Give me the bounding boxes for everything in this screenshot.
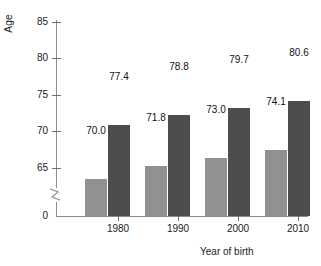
y-tick-label-0-wrap: 0	[22, 211, 48, 221]
y-axis-line	[56, 20, 57, 188]
bar-label-1990-men: 71.8	[140, 113, 172, 123]
y-tick-label-0: 0	[24, 211, 48, 221]
y-tick-70	[52, 131, 61, 132]
x-tick-label-1990: 1990	[158, 224, 198, 234]
y-tick-80	[52, 58, 61, 59]
y-tick-label-75: 75	[24, 90, 48, 100]
y-tick-75	[52, 95, 61, 96]
y-tick-label-85-wrap: 85	[22, 17, 48, 27]
bar-2010-men	[265, 150, 287, 216]
x-tick-2000	[238, 216, 239, 221]
y-axis-title: Age	[3, 2, 14, 46]
y-tick-label-85: 85	[24, 17, 48, 27]
bar-1980-men	[85, 179, 107, 216]
y-tick-label-75-wrap: 75	[22, 90, 48, 100]
axis-break-icon	[48, 186, 66, 204]
bar-2000-women	[228, 108, 250, 216]
x-axis-title: Year of birth	[200, 246, 254, 257]
y-tick-label-80: 80	[24, 53, 48, 63]
bar-label-2000-women: 79.7	[223, 55, 255, 65]
bar-label-2010-men: 74.1	[260, 97, 292, 107]
y-tick-label-70: 70	[24, 126, 48, 136]
bar-label-1980-men: 70.0	[80, 126, 112, 136]
bar-1990-women	[168, 115, 190, 216]
x-tick-label-2010: 2010	[278, 224, 318, 234]
y-tick-85	[52, 22, 61, 23]
y-axis-line-lower-segment	[56, 202, 57, 217]
x-tick-label-2000: 2000	[218, 224, 258, 234]
y-tick-65	[52, 168, 61, 169]
x-tick-1990	[178, 216, 179, 221]
y-tick-label-80-wrap: 80	[22, 53, 48, 63]
bar-label-2010-women: 80.6	[283, 48, 315, 58]
x-tick-2010	[298, 216, 299, 221]
y-tick-label-65: 65	[24, 163, 48, 173]
bar-2010-women	[288, 101, 310, 216]
x-tick-label-1980: 1980	[98, 224, 138, 234]
bar-1990-men	[145, 166, 167, 216]
bar-label-1990-women: 78.8	[163, 62, 195, 72]
bar-chart: Age Year of birth 85 80 75 70 65 0 70.0 …	[0, 0, 321, 266]
bar-1980-women	[108, 125, 130, 216]
bar-label-2000-men: 73.0	[200, 105, 232, 115]
x-tick-1980	[118, 216, 119, 221]
bar-label-1980-women: 77.4	[103, 72, 135, 82]
bar-2000-men	[205, 158, 227, 216]
x-axis-line	[56, 216, 308, 217]
y-tick-label-65-wrap: 65	[22, 163, 48, 173]
y-tick-label-70-wrap: 70	[22, 126, 48, 136]
